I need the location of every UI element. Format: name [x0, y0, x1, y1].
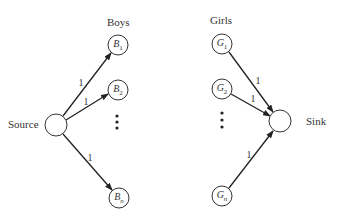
- girl-2-label: G2: [217, 82, 228, 96]
- boys-ellipsis-icon: [115, 114, 118, 129]
- girls-ellipsis-icon: [220, 111, 223, 128]
- girl-n-label: Gn: [217, 189, 228, 203]
- edge-label-source-b2: 1: [84, 96, 89, 107]
- flow-network-diagram: [0, 0, 343, 221]
- girls-heading: Girls: [210, 14, 232, 26]
- source-node: [45, 114, 67, 136]
- girl-1-label: G1: [217, 37, 228, 51]
- edge-label-gn-sink: 1: [247, 149, 252, 160]
- edge-gn-sink: [229, 131, 273, 188]
- sink-node: [269, 110, 291, 132]
- boys-heading: Boys: [107, 16, 130, 28]
- boy-2-label: B2: [113, 83, 123, 97]
- edge-label-source-b1: 1: [79, 77, 84, 88]
- boy-1-label: B1: [113, 38, 123, 52]
- boy-n-label: Bn: [114, 191, 124, 205]
- edge-label-source-bn: 1: [88, 152, 93, 163]
- sink-label: Sink: [306, 115, 326, 127]
- edge-label-g2-sink: 1: [251, 93, 256, 104]
- edge-label-g1-sink: 1: [256, 75, 261, 86]
- source-label: Source: [8, 118, 39, 130]
